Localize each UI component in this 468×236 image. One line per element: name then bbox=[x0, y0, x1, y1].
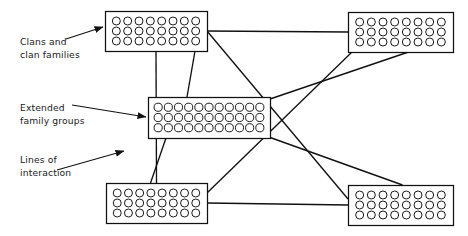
member-circle bbox=[181, 199, 189, 207]
member-circle bbox=[391, 191, 399, 199]
member-circle bbox=[147, 199, 155, 207]
member-circle bbox=[402, 38, 410, 46]
member-circle bbox=[205, 103, 213, 111]
member-circle bbox=[437, 191, 445, 199]
member-circle bbox=[174, 124, 182, 132]
member-circle bbox=[426, 201, 434, 209]
label-extended-family-groups-line1: Extended bbox=[20, 102, 65, 113]
member-circle bbox=[414, 191, 422, 199]
diagram-svg: Clans andclan familiesExtendedfamily gro… bbox=[0, 0, 468, 236]
extended-family-group-middle[interactable] bbox=[149, 98, 271, 139]
member-circle bbox=[195, 124, 203, 132]
member-circle bbox=[356, 28, 364, 36]
member-circle bbox=[225, 124, 233, 132]
member-circle bbox=[437, 211, 445, 219]
member-circle bbox=[426, 211, 434, 219]
link-bottom-left-to-bottom-right bbox=[207, 203, 348, 205]
member-circle bbox=[402, 191, 410, 199]
member-circle bbox=[124, 209, 132, 217]
label-clans-and-clan-families-line1: Clans and bbox=[20, 36, 67, 47]
member-circle bbox=[256, 124, 264, 132]
member-circle bbox=[164, 103, 172, 111]
member-circle bbox=[256, 103, 264, 111]
member-circle bbox=[146, 27, 154, 35]
member-circle bbox=[414, 201, 422, 209]
member-circle bbox=[124, 199, 132, 207]
member-circle bbox=[391, 211, 399, 219]
member-circle bbox=[169, 209, 177, 217]
member-circle bbox=[215, 103, 223, 111]
member-circle bbox=[402, 18, 410, 26]
label-clans-and-clan-families-line2: clan families bbox=[20, 49, 80, 60]
group-boxes-layer bbox=[106, 12, 454, 226]
label-lines-of-interaction-line2: interaction bbox=[20, 167, 71, 178]
member-circle bbox=[135, 37, 143, 45]
clan-group-top-right[interactable] bbox=[349, 13, 454, 53]
member-circle bbox=[426, 18, 434, 26]
member-circle bbox=[414, 38, 422, 46]
member-circle bbox=[391, 201, 399, 209]
label-lines-of-interaction: Lines ofinteraction bbox=[20, 154, 71, 178]
member-circle bbox=[437, 201, 445, 209]
member-circle bbox=[181, 189, 189, 197]
member-circle bbox=[391, 28, 399, 36]
member-circle bbox=[192, 189, 200, 197]
member-circle bbox=[426, 191, 434, 199]
member-circle bbox=[154, 124, 162, 132]
member-circle bbox=[225, 113, 233, 121]
member-circle bbox=[402, 28, 410, 36]
member-circle bbox=[158, 17, 166, 25]
member-circle bbox=[174, 103, 182, 111]
member-circle bbox=[235, 113, 243, 121]
member-circle bbox=[158, 37, 166, 45]
member-circle bbox=[112, 37, 120, 45]
member-circle bbox=[215, 124, 223, 132]
member-circle bbox=[356, 201, 364, 209]
member-circle bbox=[414, 18, 422, 26]
member-circle bbox=[180, 37, 188, 45]
member-circle bbox=[205, 124, 213, 132]
member-circle bbox=[169, 199, 177, 207]
member-circle bbox=[158, 27, 166, 35]
member-circle bbox=[367, 211, 375, 219]
member-circle bbox=[146, 17, 154, 25]
label-extended-family-groups-line2: family groups bbox=[20, 115, 85, 126]
member-circle bbox=[437, 38, 445, 46]
member-circle bbox=[235, 103, 243, 111]
member-circle bbox=[246, 103, 254, 111]
clan-group-bottom-left[interactable] bbox=[107, 184, 208, 224]
member-circle bbox=[185, 124, 193, 132]
member-circle bbox=[158, 199, 166, 207]
member-circle bbox=[169, 37, 177, 45]
member-circle bbox=[147, 189, 155, 197]
member-circle bbox=[147, 209, 155, 217]
member-circle bbox=[113, 189, 121, 197]
member-circle bbox=[164, 124, 172, 132]
member-circle bbox=[367, 18, 375, 26]
member-circle bbox=[356, 38, 364, 46]
member-circle bbox=[181, 209, 189, 217]
clan-group-top-left[interactable] bbox=[106, 12, 208, 52]
member-circle bbox=[124, 37, 132, 45]
member-circle bbox=[180, 27, 188, 35]
member-circle bbox=[367, 28, 375, 36]
member-circle bbox=[367, 38, 375, 46]
member-circle bbox=[402, 211, 410, 219]
member-circle bbox=[135, 27, 143, 35]
member-circle bbox=[169, 17, 177, 25]
member-circle bbox=[391, 38, 399, 46]
member-circle bbox=[192, 27, 200, 35]
member-circle bbox=[192, 37, 200, 45]
member-circle bbox=[379, 18, 387, 26]
clan-group-bottom-right[interactable] bbox=[349, 186, 454, 226]
member-circle bbox=[164, 113, 172, 121]
member-circle bbox=[180, 17, 188, 25]
label-clans-and-clan-families: Clans andclan families bbox=[20, 36, 80, 60]
link-top-right-to-middle bbox=[270, 52, 409, 99]
member-circle bbox=[113, 199, 121, 207]
member-circle bbox=[112, 17, 120, 25]
member-circle bbox=[146, 37, 154, 45]
member-circle bbox=[379, 38, 387, 46]
member-circle bbox=[246, 124, 254, 132]
callout-clans-leader-line bbox=[66, 27, 103, 39]
